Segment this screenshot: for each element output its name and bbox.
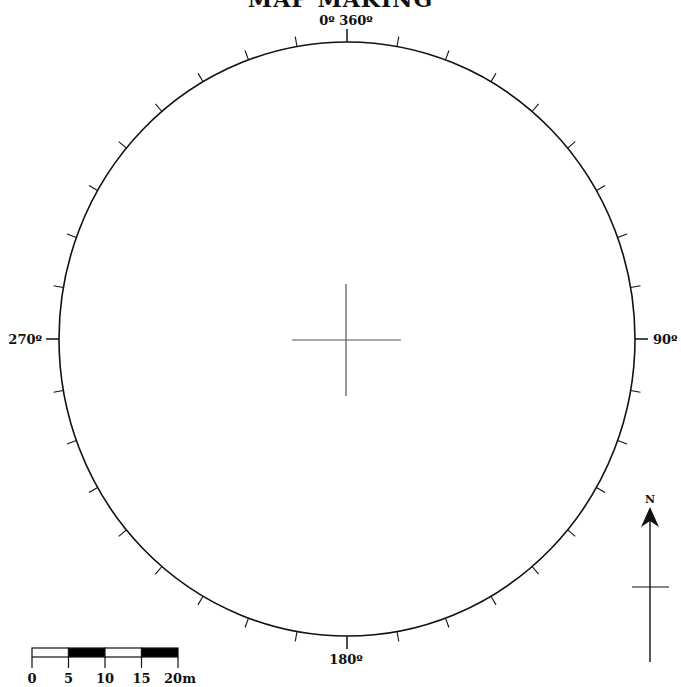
scale-label-5: 5 [64, 671, 73, 686]
tick-140 [532, 567, 538, 575]
tick-60 [596, 186, 605, 191]
scale-label-15: 15 [132, 671, 150, 686]
tick-310 [119, 142, 127, 148]
north-arrow-label: N [645, 493, 655, 506]
tick-220 [155, 567, 161, 575]
tick-200 [245, 618, 248, 627]
tick-130 [568, 530, 576, 536]
tick-100 [631, 391, 641, 393]
compass-diagram: 0º 360º 90º 180º 270º N 0 5 10 15 20m [0, 0, 681, 687]
label-north: 0º 360º [319, 13, 373, 28]
north-arrow-icon: N [632, 493, 669, 662]
label-south: 180º [329, 652, 363, 667]
degree-ticks [46, 29, 648, 649]
tick-40 [532, 104, 538, 112]
tick-170 [397, 631, 399, 641]
tick-120 [596, 488, 605, 493]
tick-160 [446, 618, 449, 627]
tick-330 [198, 73, 203, 82]
tick-50 [568, 142, 576, 148]
tick-20 [446, 51, 449, 60]
tick-280 [54, 286, 64, 288]
tick-70 [618, 234, 627, 237]
tick-110 [618, 441, 627, 444]
center-crosshair [292, 284, 401, 396]
tick-260 [54, 391, 64, 393]
scale-label-0: 0 [27, 671, 36, 686]
scale-bar: 0 5 10 15 20m [27, 648, 196, 686]
scale-label-10: 10 [96, 671, 114, 686]
tick-340 [245, 51, 248, 60]
tick-30 [491, 73, 496, 82]
tick-250 [67, 441, 76, 444]
compass-circle [59, 42, 635, 636]
tick-150 [491, 596, 496, 605]
tick-210 [198, 596, 203, 605]
scale-label-20m: 20m [164, 671, 196, 686]
tick-320 [155, 104, 161, 112]
tick-350 [295, 37, 297, 47]
tick-80 [631, 286, 641, 288]
label-east: 90º [653, 332, 678, 347]
label-west: 270º [8, 332, 42, 347]
tick-10 [397, 37, 399, 47]
tick-240 [89, 488, 98, 493]
tick-300 [89, 186, 98, 191]
tick-290 [67, 234, 76, 237]
tick-190 [295, 631, 297, 641]
tick-230 [119, 530, 127, 536]
